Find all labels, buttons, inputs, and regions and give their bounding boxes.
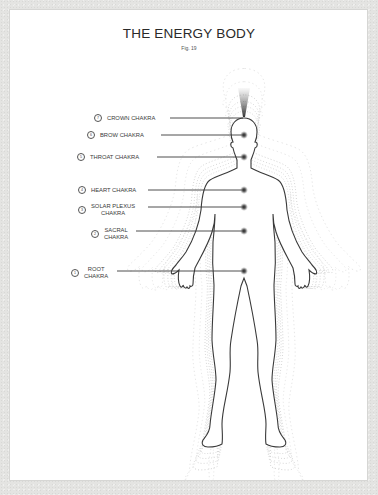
chakra-name: SOLAR PLEXUS CHAKRA [91,203,135,217]
crown-energy-cone [238,88,250,117]
chakra-label-root: 1 ROOT CHAKRA [71,266,108,280]
number-badge: 6 [87,131,95,139]
chakra-label-throat: 5 THROAT CHAKRA [77,153,139,161]
number-badge: 2 [91,230,99,238]
chakra-name: THROAT CHAKRA [90,154,139,161]
energy-body-diagram [0,0,378,495]
chakra-label-solar-plexus: 3 SOLAR PLEXUS CHAKRA [78,203,135,217]
chakra-name-line1: SOLAR PLEXUS [91,203,135,209]
chakra-label-heart: 4 HEART CHAKRA [78,186,136,194]
chakra-name: BROW CHAKRA [100,132,144,139]
number-badge: 1 [71,269,79,277]
chakra-name: HEART CHAKRA [91,187,136,194]
chakra-name: CROWN CHAKRA [107,115,155,122]
chakra-name-line2: CHAKRA [84,273,108,279]
chakra-name-line1: SACRAL [104,227,127,233]
number-badge: 5 [77,153,85,161]
chakra-name: SACRAL CHAKRA [104,227,128,241]
chakra-label-sacral: 2 SACRAL CHAKRA [91,227,128,241]
chakra-name-line2: CHAKRA [104,234,128,240]
chakra-name: ROOT CHAKRA [84,266,108,280]
number-badge: 3 [78,206,86,214]
chakra-label-brow: 6 BROW CHAKRA [87,131,144,139]
body-outline [171,118,317,447]
number-badge: 7 [94,114,102,122]
number-badge: 4 [78,186,86,194]
chakra-name-line2: CHAKRA [101,210,125,216]
chakra-label-crown: 7 CROWN CHAKRA [94,114,155,122]
chakra-name-line1: ROOT [88,266,105,272]
